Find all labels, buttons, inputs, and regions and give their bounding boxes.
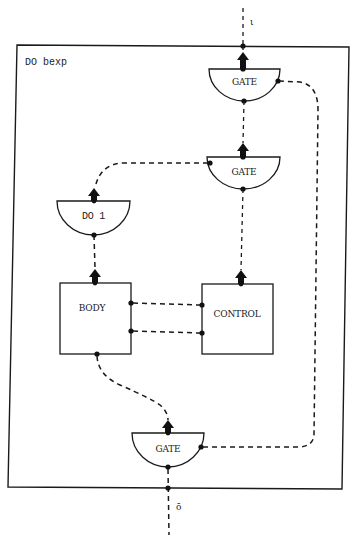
edge-body-control-1 bbox=[133, 303, 200, 305]
control-left-port-1 bbox=[199, 302, 204, 307]
input-connection: ι bbox=[240, 8, 254, 58]
do1-node: DO 1 bbox=[57, 188, 130, 238]
edge-body-to-gate-bottom bbox=[97, 356, 168, 420]
output-connection: ō bbox=[165, 469, 181, 535]
gate-middle-label: GATE bbox=[232, 167, 257, 177]
gate-middle-left-port bbox=[207, 160, 212, 165]
body-right-port-1 bbox=[128, 300, 133, 305]
output-port-dot bbox=[165, 485, 170, 490]
body-right-port-2 bbox=[128, 328, 133, 333]
output-label: ō bbox=[176, 502, 181, 512]
frame-label: DO bexp bbox=[25, 57, 67, 68]
input-label: ι bbox=[250, 17, 254, 27]
frame-do-bexp: DO bexp bbox=[8, 45, 349, 489]
control-label: CONTROL bbox=[214, 309, 261, 319]
gate-bottom-right-port bbox=[198, 444, 203, 449]
edge-gate-middle-to-do1 bbox=[95, 163, 208, 188]
edge-body-control-2 bbox=[133, 331, 200, 333]
control-left-port-2 bbox=[199, 330, 204, 335]
edge-control-to-gate-middle bbox=[241, 189, 243, 270]
body-node: BODY bbox=[60, 269, 134, 357]
body-bottom-port bbox=[94, 351, 99, 356]
edge-gate-bottom-to-gate-top bbox=[203, 81, 318, 447]
gate-top-right-port bbox=[275, 78, 280, 83]
gate-top: GATE bbox=[209, 52, 281, 104]
do-bexp-diagram: DO bexp ι GATE GATE DO 1 bbox=[0, 0, 356, 538]
edge-gate-middle-to-gate-top bbox=[243, 101, 244, 143]
edge-do1-to-body bbox=[94, 235, 95, 268]
gate-bottom-bottom-port bbox=[165, 464, 170, 469]
do1-label: DO 1 bbox=[82, 211, 105, 222]
control-node: CONTROL bbox=[199, 270, 273, 354]
body-label: BODY bbox=[79, 303, 107, 313]
gate-bottom: GATE bbox=[132, 420, 204, 470]
gate-bottom-label: GATE bbox=[156, 444, 181, 454]
gate-middle: GATE bbox=[207, 143, 280, 192]
gate-top-label: GATE bbox=[232, 77, 257, 87]
